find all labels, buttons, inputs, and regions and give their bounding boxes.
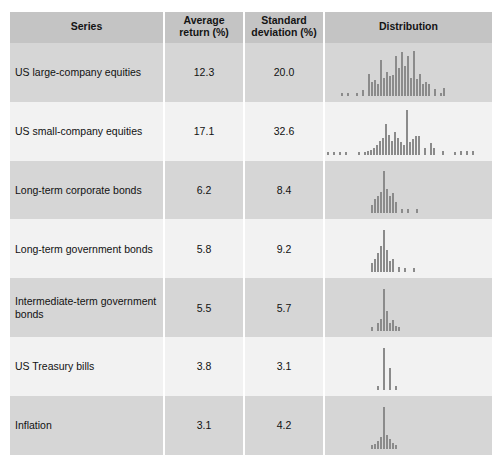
- histogram-bar: [380, 319, 382, 331]
- histogram-bar: [392, 193, 394, 213]
- histogram-bar: [383, 289, 385, 331]
- histogram-bar: [383, 348, 385, 390]
- histogram-bar: [434, 89, 436, 96]
- histogram-bar: [380, 437, 382, 449]
- distribution-histogram: [325, 278, 492, 337]
- histogram-bar: [416, 209, 418, 213]
- standard-deviation-value: 9.2: [245, 243, 323, 255]
- histogram-bar: [398, 267, 400, 272]
- cell-standard-deviation: 9.2: [243, 219, 323, 278]
- histogram-bar: [377, 441, 379, 449]
- column-header-series: Series: [10, 10, 163, 43]
- histogram-bar: [404, 268, 406, 272]
- column-header-standard-deviation-label: Standard deviation (%): [251, 15, 316, 38]
- table-row: US large-company equities12.320.0: [10, 43, 492, 102]
- series-label: US large-company equities: [10, 66, 145, 79]
- histogram-bar: [394, 132, 396, 155]
- histogram-bar: [371, 263, 373, 272]
- cell-series: Intermediate-term government bonds: [10, 278, 163, 337]
- cell-series: Long-term corporate bonds: [10, 161, 163, 220]
- column-header-series-label: Series: [71, 21, 103, 33]
- table-header-row: Series Average return (%) Standard devia…: [10, 10, 492, 43]
- table-row: Long-term corporate bonds6.28.4: [10, 161, 492, 220]
- histogram-bar: [358, 152, 360, 155]
- table-row: US Treasury bills3.83.1: [10, 337, 492, 396]
- average-return-line2: return (%): [179, 26, 229, 38]
- histogram-bar: [454, 152, 456, 155]
- cell-distribution: [323, 219, 492, 278]
- histogram-bar: [379, 141, 381, 155]
- histogram-bar: [395, 386, 397, 390]
- cell-average-return: 12.3: [163, 43, 243, 102]
- histogram-bar: [398, 327, 400, 331]
- histogram-bar: [327, 152, 329, 155]
- histogram-bar: [339, 152, 341, 155]
- histogram-bar: [389, 323, 391, 331]
- histogram-bar: [383, 230, 385, 272]
- histogram-bar: [466, 151, 468, 155]
- table-body: US large-company equities12.320.0US smal…: [10, 43, 492, 455]
- histogram-bar: [395, 202, 397, 213]
- histogram-bar: [367, 151, 369, 155]
- histogram-bar: [401, 209, 403, 213]
- histogram-bar: [386, 250, 388, 272]
- average-return-value: 17.1: [165, 125, 243, 137]
- average-return-value: 5.5: [165, 302, 243, 314]
- histogram-bar: [374, 199, 376, 213]
- histogram-bar: [400, 142, 402, 155]
- histogram-bar: [424, 148, 426, 155]
- histogram-bar: [409, 142, 411, 155]
- histogram-bar: [415, 136, 417, 155]
- histogram-bar: [407, 209, 409, 213]
- cell-distribution: [323, 278, 492, 337]
- histogram-bar: [341, 93, 343, 96]
- histogram-bar: [386, 189, 388, 213]
- series-label: US small-company equities: [10, 125, 146, 138]
- standard-deviation-line1: Standard: [261, 14, 307, 26]
- histogram-bar: [382, 138, 384, 155]
- histogram-bar: [374, 259, 376, 272]
- histogram-bar: [345, 152, 347, 155]
- histogram-bar: [395, 56, 397, 96]
- histogram-bar: [374, 80, 376, 96]
- series-label: Long-term corporate bonds: [10, 184, 146, 197]
- histogram-bar: [395, 445, 397, 449]
- histogram-bar: [377, 323, 379, 331]
- histogram-bar: [416, 79, 418, 96]
- cell-series: US small-company equities: [10, 102, 163, 161]
- cell-standard-deviation: 4.2: [243, 396, 323, 455]
- cell-standard-deviation: 20.0: [243, 43, 323, 102]
- histogram-bar: [406, 110, 408, 155]
- histogram-bar: [392, 320, 394, 331]
- standard-deviation-value: 8.4: [245, 184, 323, 196]
- histogram-bar: [368, 74, 370, 96]
- distribution-histogram: [325, 396, 492, 455]
- histogram-bar: [413, 268, 415, 272]
- cell-distribution: [323, 396, 492, 455]
- histogram-bar: [389, 76, 391, 96]
- histogram-bar: [391, 141, 393, 155]
- histogram-bar: [412, 139, 414, 155]
- table-row: Inflation3.14.2: [10, 396, 492, 455]
- histogram-bar: [430, 143, 432, 155]
- histogram-bar: [433, 148, 435, 155]
- distribution-histogram: [325, 102, 492, 161]
- histogram-bar: [389, 368, 391, 390]
- histogram-bar: [362, 90, 364, 96]
- histogram-bar: [371, 327, 373, 331]
- histogram-bar: [373, 148, 375, 155]
- histogram-bar: [460, 151, 462, 155]
- cell-average-return: 6.2: [163, 161, 243, 220]
- standard-deviation-value: 32.6: [245, 125, 323, 137]
- histogram-bar: [403, 145, 405, 155]
- average-return-value: 3.1: [165, 419, 243, 431]
- cell-series: US large-company equities: [10, 43, 163, 102]
- histogram-bar: [413, 51, 415, 96]
- histogram-bar: [380, 192, 382, 213]
- cell-standard-deviation: 32.6: [243, 102, 323, 161]
- histogram-bar: [370, 150, 372, 155]
- standard-deviation-value: 20.0: [245, 66, 323, 78]
- histogram-bar: [374, 444, 376, 449]
- average-return-value: 5.8: [165, 243, 243, 255]
- histogram-bar: [392, 75, 394, 96]
